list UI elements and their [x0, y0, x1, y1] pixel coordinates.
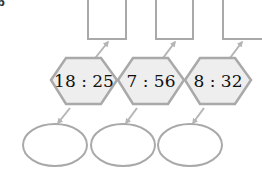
answer-oval-1[interactable]	[23, 124, 87, 166]
answer-box-1[interactable]	[88, 0, 126, 39]
ratio-hexagon-1: 18 : 25	[51, 58, 117, 104]
ratio-hexagon-3: 8 : 32	[185, 58, 251, 104]
arrow-down-3	[193, 108, 204, 123]
arrow-down-2	[126, 108, 137, 123]
ratio-text-3: 8 : 32	[194, 71, 243, 91]
ratio-hexagon-2: 7 : 56	[118, 58, 184, 104]
ratio-diagram: b 18 : 25 7 : 56	[0, 0, 262, 169]
answer-box-2[interactable]	[156, 0, 193, 39]
answer-oval-2[interactable]	[91, 124, 155, 166]
ratio-text-1: 18 : 25	[54, 71, 114, 91]
arrow-down-1	[58, 108, 70, 123]
answer-box-3[interactable]	[223, 0, 262, 39]
answer-oval-3[interactable]	[158, 124, 222, 166]
ratio-text-2: 7 : 56	[127, 71, 176, 91]
diagram-canvas: 18 : 25 7 : 56 8 : 32	[0, 0, 262, 169]
